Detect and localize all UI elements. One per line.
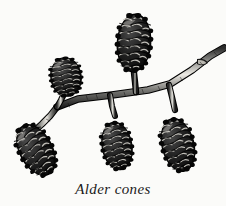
cone-top-center [113, 11, 156, 74]
figure-alder-cones: Alder cones [0, 0, 226, 206]
alder-cones-illustration [0, 0, 226, 206]
cone-upper-left [46, 54, 86, 99]
cone-lower-center [96, 118, 138, 173]
figure-caption: Alder cones [0, 180, 226, 198]
cone-lower-right [153, 113, 202, 176]
